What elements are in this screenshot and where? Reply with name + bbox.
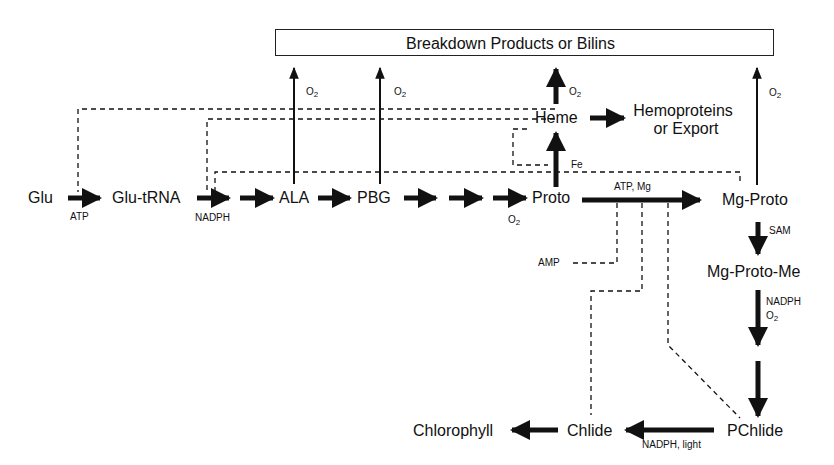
- node-chlorophyll: Chlorophyll: [413, 423, 493, 439]
- label-fe: Fe: [571, 160, 583, 170]
- regulatory-feedback-lines: [78, 109, 740, 418]
- node-export: or Export: [654, 121, 719, 137]
- node-proto: Proto: [532, 190, 570, 206]
- label-sam: SAM: [769, 226, 791, 236]
- pathway-diagram: [0, 0, 834, 465]
- node-ala: ALA: [279, 190, 309, 206]
- label-nadph-mgprotome: NADPH: [766, 297, 801, 307]
- label-atp: ATP: [70, 212, 89, 222]
- label-o2-mgprotome: O2: [766, 311, 778, 323]
- label-o2-heme: O2: [569, 87, 581, 99]
- label-atp-mg: ATP, Mg: [614, 182, 651, 192]
- node-mg-proto-me: Mg-Proto-Me: [707, 264, 800, 280]
- node-heme: Heme: [535, 110, 578, 126]
- label-nadph: NADPH: [195, 213, 230, 223]
- label-o2-proto: O2: [508, 215, 520, 227]
- node-glu: Glu: [28, 190, 53, 206]
- node-hemoproteins: Hemoproteins: [633, 103, 733, 119]
- breakdown-products-box: Breakdown Products or Bilins: [275, 29, 774, 56]
- label-nadph-light: NADPH, light: [642, 440, 701, 450]
- label-amp: AMP: [538, 258, 560, 268]
- node-mg-proto: Mg-Proto: [722, 192, 788, 208]
- label-o2-pbg: O2: [394, 87, 406, 99]
- label-o2-ala: O2: [306, 87, 318, 99]
- node-pbg: PBG: [357, 190, 391, 206]
- label-o2-mg-proto: O2: [769, 88, 781, 100]
- box-label: Breakdown Products or Bilins: [406, 35, 615, 53]
- node-chlide: Chlide: [567, 423, 612, 439]
- node-pchlide: PChlide: [727, 423, 783, 439]
- node-glu-trna: Glu-tRNA: [112, 190, 180, 206]
